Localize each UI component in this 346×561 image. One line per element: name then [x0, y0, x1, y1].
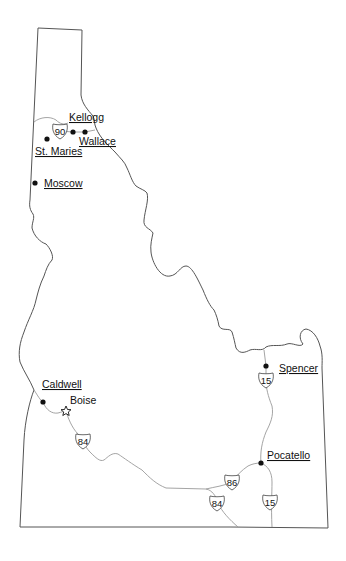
city-link-moscow[interactable]: Moscow [44, 177, 83, 189]
shield-i15-label: 15 [265, 497, 276, 508]
shield-i86: 86 [225, 475, 240, 490]
city-marker-kellogg-icon [70, 129, 75, 134]
idaho-map: 90 84 15 86 84 15 [0, 0, 346, 561]
shield-i15-south: 15 [263, 495, 278, 510]
shield-i90-label: 90 [55, 126, 66, 137]
shield-i84-label: 84 [78, 436, 89, 447]
shield-i15-spencer: 15 [259, 373, 274, 388]
shield-i90: 90 [53, 124, 68, 139]
shield-i86-label: 86 [227, 477, 238, 488]
city-marker-st-maries-icon [44, 136, 49, 141]
interstate-shields: 90 84 15 86 84 15 [53, 124, 278, 511]
city-link-st-maries[interactable]: St. Maries [35, 145, 82, 157]
capital-star-icon [61, 406, 71, 416]
city-link-caldwell[interactable]: Caldwell [42, 378, 82, 390]
city-label-boise: Boise [70, 394, 96, 406]
shield-i84-label: 84 [212, 498, 223, 509]
panhandle-outline [34, 118, 68, 124]
city-marker-spencer-icon [263, 363, 268, 368]
shield-i84-boise: 84 [76, 434, 91, 449]
city-link-wallace[interactable]: Wallace [79, 135, 116, 147]
shield-i15-label: 15 [261, 375, 272, 386]
city-marker-wallace-icon [82, 129, 87, 134]
city-marker-moscow-icon [32, 180, 37, 185]
city-labels: Kellogg Wallace St. Maries Moscow Caldwe… [35, 111, 319, 461]
city-marker-pocatello-icon [258, 460, 263, 465]
shield-i84-south: 84 [210, 496, 225, 511]
city-link-spencer[interactable]: Spencer [279, 362, 319, 374]
city-link-kellogg[interactable]: Kellogg [69, 111, 104, 123]
city-marker-caldwell-icon [40, 399, 45, 404]
city-link-pocatello[interactable]: Pocatello [267, 449, 310, 461]
